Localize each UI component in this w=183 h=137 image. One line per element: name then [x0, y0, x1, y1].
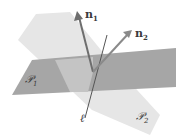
label-p2: 𝒫2: [136, 110, 148, 125]
arrowhead-n1: [74, 11, 83, 21]
label-line: ℓ: [80, 112, 85, 125]
label-n1: n1: [85, 8, 98, 23]
label-p1: 𝒫1: [25, 73, 37, 88]
label-n2: n2: [135, 27, 148, 42]
